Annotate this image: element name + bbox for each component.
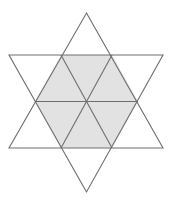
figure-canvas — [0, 0, 172, 204]
hexagram-figure — [0, 0, 172, 204]
